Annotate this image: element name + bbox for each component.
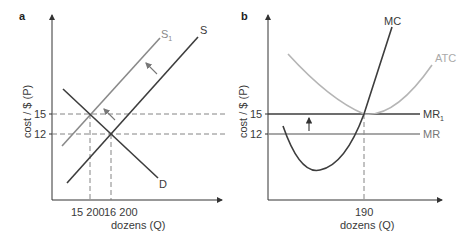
label-mr: MR <box>423 128 440 140</box>
x-axis-label: dozens (Q) <box>340 219 394 231</box>
panel-a: a S S1 D 15 12 15 200 16 200 dozens (Q) … <box>19 10 225 231</box>
ytick-12: 12 <box>34 128 46 140</box>
ytick-12: 12 <box>250 128 262 140</box>
xtick-15200: 15 200 <box>71 206 105 218</box>
figure: a S S1 D 15 12 15 200 16 200 dozens (Q) … <box>0 0 460 241</box>
supply-s-line <box>67 37 198 183</box>
label-d: D <box>159 178 167 190</box>
atc-curve <box>288 54 432 114</box>
y-axis-label: cost / $ (P) <box>237 85 249 138</box>
label-mc: MC <box>384 15 401 27</box>
x-axis-label: dozens (Q) <box>111 219 165 231</box>
shift-arrow-icon <box>104 109 115 120</box>
label-s1: S1 <box>161 28 172 42</box>
panel-a-label: a <box>19 10 26 22</box>
xtick-16200: 16 200 <box>104 206 138 218</box>
demand-line <box>63 89 158 178</box>
label-s: S <box>200 24 207 36</box>
label-mr1: MR1 <box>423 108 444 122</box>
shift-arrow-icon <box>146 63 157 74</box>
label-atc: ATC <box>435 52 456 64</box>
ytick-15: 15 <box>34 108 46 120</box>
supply-s1-line <box>62 38 160 146</box>
y-axis-label: cost / $ (P) <box>21 85 33 138</box>
panel-b: b MC ATC MR1 MR 15 12 190 dozens (Q) cos… <box>237 10 456 231</box>
panel-b-label: b <box>241 10 248 22</box>
ytick-15: 15 <box>250 108 262 120</box>
xtick-190: 190 <box>355 206 373 218</box>
